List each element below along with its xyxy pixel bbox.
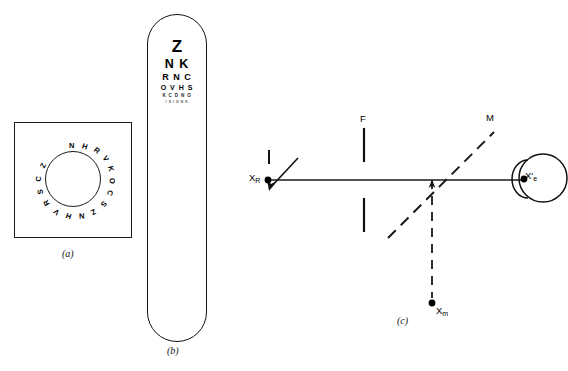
ring-letter: C	[35, 176, 43, 182]
label-focal-plane: F	[360, 113, 366, 124]
figure-canvas: N H R V K O C S Z N H V R S C Z (a) Z N …	[0, 0, 568, 371]
label-xr-sub: R	[255, 177, 260, 184]
acuity-row-group: Z N K R N C O V H S K C D N O I S I D N …	[147, 38, 207, 104]
ring-letter: N	[69, 142, 74, 150]
caption-b: (b)	[167, 345, 179, 356]
ring-letter: C	[105, 189, 114, 197]
ring-letter: K	[106, 165, 114, 172]
point-xr-dot	[265, 177, 272, 184]
label-xm-sub: m	[442, 310, 448, 317]
label-point-xe: X'e	[525, 170, 537, 182]
panel-a-circular-chart: N H R V K O C S Z N H V R S C Z	[14, 122, 134, 240]
panel-b-acuity-chart: Z N K R N C O V H S K C D N O I S I D N …	[147, 14, 209, 344]
label-xe-sub: e	[533, 175, 537, 182]
ring-letter: S	[36, 189, 44, 195]
point-xm-dot	[429, 300, 436, 307]
ring-letter: V	[101, 155, 110, 163]
ring-letter: H	[81, 142, 88, 151]
acuity-row: Z	[147, 38, 207, 56]
panel-c-optical-diagram: F M XR X'e Xm	[236, 100, 568, 345]
ring-letter: Z	[90, 207, 98, 216]
ring-letter: O	[108, 178, 116, 184]
ring-letter: R	[92, 146, 101, 155]
caption-a: (a)	[62, 248, 74, 259]
ring-letter: Z	[39, 162, 48, 169]
mirror-dashed-line	[388, 132, 494, 238]
acuity-row: N K	[147, 58, 207, 71]
label-mirror: M	[486, 112, 494, 123]
ring-letter-group: N H R V K O C S Z N H V R S C Z	[14, 122, 132, 238]
acuity-row: I S I D N K	[147, 101, 207, 105]
ring-letter: R	[42, 199, 51, 207]
ring-letter: V	[52, 207, 61, 216]
ring-letter: S	[99, 199, 108, 208]
label-xe-base: X'	[525, 170, 533, 181]
acuity-row: R N C	[147, 73, 207, 82]
label-point-xm: Xm	[436, 305, 448, 317]
acuity-row: K C D N O	[147, 94, 207, 99]
optical-diagram-svg	[236, 100, 568, 345]
label-point-xr: XR	[249, 172, 260, 184]
caption-c: (c)	[397, 315, 408, 326]
ring-letter: H	[65, 211, 73, 220]
ring-letter: N	[79, 212, 85, 220]
acuity-row: O V H S	[147, 84, 207, 91]
